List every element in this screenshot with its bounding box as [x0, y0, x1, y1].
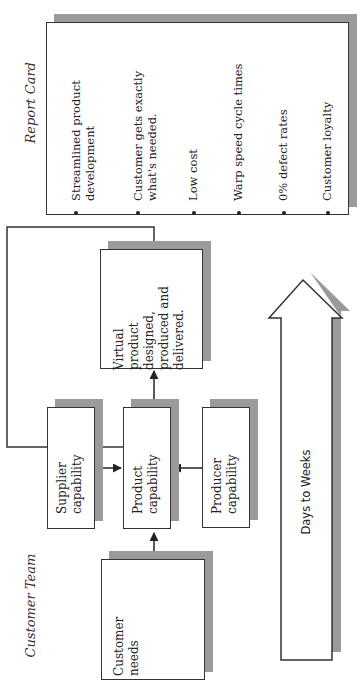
producer-capability-label: Producer capability [210, 422, 242, 514]
supplier-capability-label: Supplier capability [55, 422, 87, 514]
customer-needs-label: Customer needs [112, 596, 144, 676]
virtual-product-label: Virtual product designed, produced and d… [112, 250, 192, 370]
product-capability-label: Product capability [131, 422, 163, 514]
team-label: Customer Team [23, 558, 38, 658]
timeline-label: Days to Weeks [299, 442, 313, 542]
